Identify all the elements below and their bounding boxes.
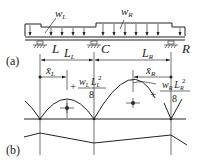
load-left-label: wL: [55, 7, 66, 21]
support-moment-diagram: [24, 133, 187, 145]
support-label-right: R: [181, 41, 190, 56]
beam: [25, 37, 185, 40]
panel-b-label: (b): [6, 143, 20, 157]
support-left: [33, 41, 47, 48]
support-right: [164, 41, 178, 48]
centroid-marker-right: [126, 98, 140, 108]
support-center: [87, 41, 101, 48]
moment-left-formula: + wLLL 2 8: [70, 74, 106, 100]
svg-text:+: +: [70, 80, 76, 92]
svg-text:wRLR: wRLR: [162, 79, 184, 91]
three-moment-diagram: wL wR L C R (a) LL: [0, 0, 201, 167]
distributed-load: [25, 18, 185, 36]
span-right-label: LR: [141, 46, 154, 61]
svg-text:8: 8: [89, 89, 94, 100]
support-label-left: L: [51, 41, 59, 56]
svg-text:2: 2: [98, 74, 102, 82]
svg-text:2: 2: [182, 77, 186, 85]
span-left-label: LL: [63, 46, 75, 61]
support-label-center: C: [101, 41, 110, 56]
load-right-label: wR: [121, 5, 133, 19]
centroid-left-label: x̄L: [45, 64, 55, 78]
panel-a-label: (a): [6, 54, 19, 68]
svg-text:8: 8: [172, 93, 177, 104]
centroid-marker-left: [60, 103, 74, 113]
centroid-right-label: x̄R: [145, 64, 156, 78]
reference-lines: [40, 52, 171, 155]
